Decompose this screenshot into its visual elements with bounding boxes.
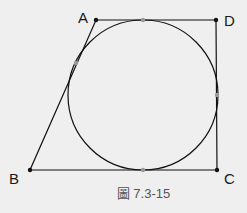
vertex-points: [28, 18, 219, 172]
quadrilateral-diagram: [0, 0, 247, 213]
tangent-points: [74, 18, 219, 172]
label-d: D: [224, 12, 235, 29]
figure-caption: 圖 7.3-15: [0, 183, 247, 202]
inscribed-circle: [68, 20, 218, 170]
quadrilateral-abcd: [30, 20, 217, 170]
label-a: A: [78, 9, 88, 26]
